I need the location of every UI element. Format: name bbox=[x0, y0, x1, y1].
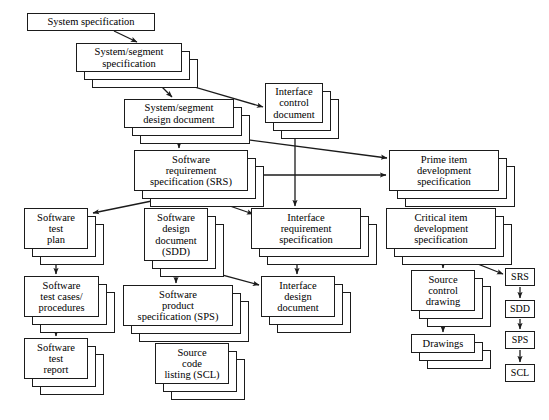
node-box: System/segment design document bbox=[124, 99, 234, 128]
node-box: SCL bbox=[505, 364, 535, 382]
node-sw_test_plan[interactable]: Software test plan bbox=[24, 208, 88, 249]
node-box: Source control drawing bbox=[411, 270, 475, 311]
node-box: System/segment specification bbox=[76, 43, 182, 72]
node-label: System/segment specification bbox=[77, 46, 181, 68]
node-label: Interface requirement specification bbox=[252, 212, 360, 245]
node-sps[interactable]: Software product specification (SPS) bbox=[123, 285, 233, 326]
node-box: Software product specification (SPS) bbox=[123, 285, 233, 326]
node-box: Interface requirement specification bbox=[251, 208, 361, 249]
node-leg_scl[interactable]: SCL bbox=[505, 364, 535, 382]
node-label: Interface control document bbox=[266, 86, 322, 119]
node-critical_item[interactable]: Critical item development specification bbox=[386, 208, 496, 249]
node-box: SRS bbox=[505, 268, 535, 286]
node-drawings[interactable]: Drawings bbox=[411, 334, 475, 353]
node-label: System specification bbox=[28, 16, 154, 27]
node-box: SPS bbox=[505, 331, 535, 349]
node-box: Prime item development specification bbox=[389, 150, 499, 191]
node-box: Software test report bbox=[24, 338, 88, 379]
node-label: System/segment design document bbox=[125, 102, 233, 124]
node-leg_srs[interactable]: SRS bbox=[505, 268, 535, 286]
node-box: SDD bbox=[505, 300, 535, 318]
node-label: Drawings bbox=[412, 338, 474, 349]
node-box: Interface design document bbox=[261, 276, 335, 317]
node-label: Software product specification (SPS) bbox=[124, 289, 232, 322]
node-label: SCL bbox=[506, 368, 534, 379]
node-label: Source control drawing bbox=[412, 274, 474, 307]
node-system_spec[interactable]: System specification bbox=[27, 13, 155, 31]
node-label: Prime item development specification bbox=[390, 154, 498, 187]
node-sdd[interactable]: Software design document (SDD) bbox=[144, 208, 208, 261]
node-box: Software design document (SDD) bbox=[144, 208, 208, 261]
node-sys_seg_design[interactable]: System/segment design document bbox=[124, 99, 234, 128]
node-interface_req[interactable]: Interface requirement specification bbox=[251, 208, 361, 249]
diagram-canvas: System specificationSystem/segment speci… bbox=[0, 0, 549, 420]
node-box: Critical item development specification bbox=[386, 208, 496, 249]
node-interface_design[interactable]: Interface design document bbox=[261, 276, 335, 317]
node-sw_test_cases[interactable]: Software test cases/ procedures bbox=[24, 276, 99, 317]
node-label: Software test cases/ procedures bbox=[25, 280, 98, 313]
node-label: SPS bbox=[506, 335, 534, 346]
node-label: Source code listing (SCL) bbox=[156, 347, 228, 380]
node-interface_control[interactable]: Interface control document bbox=[265, 83, 323, 123]
node-leg_sps[interactable]: SPS bbox=[505, 331, 535, 349]
node-source_control[interactable]: Source control drawing bbox=[411, 270, 475, 311]
node-box: Software test cases/ procedures bbox=[24, 276, 99, 317]
node-box: Interface control document bbox=[265, 83, 323, 123]
node-label: Software requirement specification (SRS) bbox=[135, 154, 247, 187]
node-srs[interactable]: Software requirement specification (SRS) bbox=[134, 150, 248, 191]
node-box: Drawings bbox=[411, 334, 475, 353]
node-box: Software requirement specification (SRS) bbox=[134, 150, 248, 191]
node-box: System specification bbox=[27, 13, 155, 31]
node-label: Interface design document bbox=[262, 280, 334, 313]
node-source_code[interactable]: Source code listing (SCL) bbox=[155, 343, 229, 384]
edge-system_spec-to-sys_seg_spec bbox=[114, 31, 137, 42]
node-box: Software test plan bbox=[24, 208, 88, 249]
node-sys_seg_spec[interactable]: System/segment specification bbox=[76, 43, 182, 72]
node-prime_item[interactable]: Prime item development specification bbox=[389, 150, 499, 191]
node-box: Source code listing (SCL) bbox=[155, 343, 229, 384]
node-label: Critical item development specification bbox=[387, 212, 495, 245]
node-label: Software test report bbox=[25, 342, 87, 375]
node-label: Software test plan bbox=[25, 212, 87, 245]
node-label: SRS bbox=[506, 272, 534, 283]
node-leg_sdd[interactable]: SDD bbox=[505, 300, 535, 318]
node-sw_test_report[interactable]: Software test report bbox=[24, 338, 88, 379]
node-label: SDD bbox=[506, 304, 534, 315]
node-label: Software design document (SDD) bbox=[145, 212, 207, 257]
